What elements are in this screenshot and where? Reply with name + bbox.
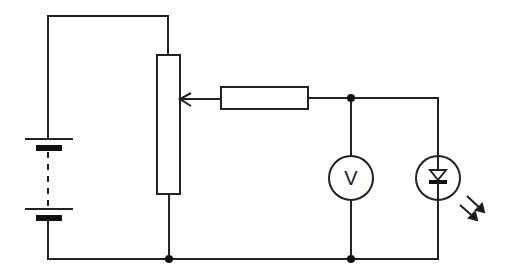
light-arrows-icon [460, 196, 484, 220]
battery [25, 139, 73, 221]
resistor [221, 87, 308, 109]
voltmeter-label: V [344, 167, 358, 189]
junction-dot [165, 255, 173, 263]
junction-dot [347, 255, 355, 263]
potentiometer [157, 55, 180, 194]
wire-top-right [308, 98, 438, 156]
wire-top-left [48, 16, 168, 139]
junction-dot [347, 94, 355, 102]
circuit-diagram: V [0, 0, 512, 276]
wire-bottom [48, 200, 438, 259]
wiper-arrow-icon [180, 93, 221, 106]
